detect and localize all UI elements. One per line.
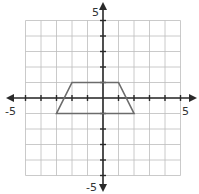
coordinate-plane: 5 -5 -5 5 [0,0,199,194]
y-max-label: 5 [92,6,99,19]
y-min-label: -5 [86,181,97,194]
axes [6,2,197,192]
x-min-label: -5 [5,105,16,118]
x-max-label: 5 [182,105,189,118]
